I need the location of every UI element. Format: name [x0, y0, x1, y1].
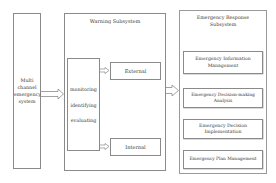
internal-label: Internal — [125, 144, 145, 151]
multi-channel-label-line-4: system — [14, 98, 40, 105]
multi-channel-label-line-3: emergency — [14, 91, 40, 98]
internal-box: Internal — [110, 138, 161, 156]
module-decision-making-analysis: Emergency Decision-making Analysis — [183, 88, 263, 108]
multi-channel-label-line-2: channel — [14, 84, 40, 91]
module-information-management-line-2: Management — [208, 63, 239, 70]
response-subsystem-title: Emergency Response Subsystem — [180, 15, 266, 28]
module-decision-implementation-line-2: Implementation — [205, 129, 242, 136]
process-step-monitoring: monitoring — [68, 86, 99, 93]
external-box: External — [110, 62, 161, 80]
response-title-line-2: Subsystem — [180, 22, 266, 29]
module-decision-implementation: Emergency Decision Implementation — [183, 119, 263, 139]
module-decision-making-line-2: Analysis — [214, 98, 232, 105]
process-step-identifying: identifying — [68, 102, 99, 109]
multi-channel-label: Multi channel emergency system — [14, 77, 40, 105]
warning-subsystem-title: Warning Subsystem — [65, 18, 165, 25]
module-plan-management: Emergency Plan Management — [183, 150, 263, 169]
arrow-warning-to-response-icon — [166, 85, 179, 96]
module-information-management: Emergency Information Management — [183, 51, 263, 74]
process-step-evaluating: evaluating — [68, 117, 99, 124]
module-plan-management-line-1: Emergency Plan Management — [189, 156, 256, 163]
external-label: External — [125, 68, 147, 75]
multi-channel-label-line-1: Multi — [14, 77, 40, 84]
diagram-canvas: Multi channel emergency system Warning S… — [0, 0, 276, 183]
monitoring-process-box: monitoring identifying evaluating — [67, 58, 100, 151]
arrow-source-to-warning-icon — [41, 89, 64, 99]
multi-channel-system-box: Multi channel emergency system — [13, 13, 41, 169]
